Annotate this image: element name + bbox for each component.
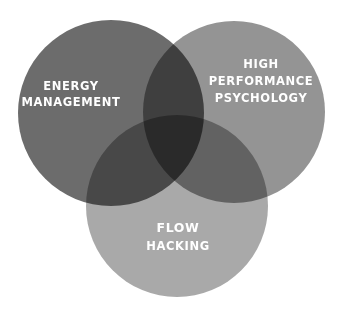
venn-circles <box>18 20 325 297</box>
venn-diagram: ENERGY MANAGEMENT HIGH PERFORMANCE PSYCH… <box>0 0 343 315</box>
circle-flow-hacking <box>86 115 268 297</box>
label-flow-line-2: HACKING <box>146 239 209 253</box>
label-performance-line-1: HIGH <box>243 57 278 71</box>
label-performance-line-3: PSYCHOLOGY <box>215 91 308 105</box>
label-energy-line-1: ENERGY <box>43 79 98 93</box>
label-flow-line-1: FLOW <box>157 220 200 235</box>
label-performance-line-2: PERFORMANCE <box>209 74 314 88</box>
label-energy-line-2: MANAGEMENT <box>22 95 121 109</box>
